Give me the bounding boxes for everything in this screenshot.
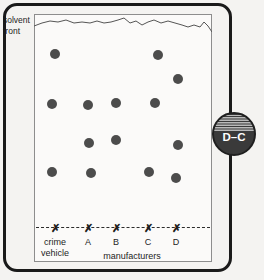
lane-c-label-line1: C (145, 237, 152, 248)
solvent-front-label: solvent front (3, 15, 33, 36)
lane-b-label: B (113, 237, 119, 248)
chromatogram-spot (47, 99, 57, 109)
lane-crime-vehicle-origin-marker: ✗ (51, 223, 60, 234)
lane-c-origin-marker: ✗ (144, 223, 153, 234)
chromatogram-spot (84, 138, 94, 148)
chromatogram-spot (83, 100, 93, 110)
dc-badge-graphic (212, 112, 256, 156)
lane-b-label-line1: B (113, 237, 119, 248)
lane-a-label-line1: A (85, 237, 91, 248)
lane-crime-vehicle-label: crimevehicle (41, 237, 69, 259)
solvent-front-label-line1: solvent (3, 15, 33, 26)
chromatogram-spot (173, 74, 183, 84)
chromatogram-spot (144, 167, 154, 177)
lane-d-origin-marker: ✗ (172, 223, 181, 234)
lane-a-label: A (85, 237, 91, 248)
chromatogram-spot (47, 167, 57, 177)
lane-crime-vehicle-label-line2: vehicle (41, 248, 69, 259)
chromatogram-spot (111, 98, 121, 108)
lane-a-origin-marker: ✗ (84, 223, 93, 234)
chromatogram-spot (171, 173, 181, 183)
baseline (36, 227, 210, 230)
chromatogram-spot (153, 50, 163, 60)
manufacturers-group-label: manufacturers (103, 251, 161, 262)
chromatogram-spot (86, 168, 96, 178)
tlc-plate (34, 14, 212, 262)
lane-crime-vehicle-label-line1: crime (41, 237, 69, 248)
chromatogram-spot (50, 49, 60, 59)
chromatogram-figure: solvent front ✗✗✗✗✗ crimevehicleABCD man… (0, 0, 264, 280)
lane-d-label: D (173, 237, 180, 248)
dc-badge[interactable]: D–C (212, 112, 256, 156)
solvent-front-label-line2: front (3, 26, 33, 37)
lane-c-label: C (145, 237, 152, 248)
chromatogram-spot (173, 140, 183, 150)
lane-b-origin-marker: ✗ (112, 223, 121, 234)
lane-d-label-line1: D (173, 237, 180, 248)
chromatogram-spot (111, 135, 121, 145)
chromatogram-spot (150, 98, 160, 108)
